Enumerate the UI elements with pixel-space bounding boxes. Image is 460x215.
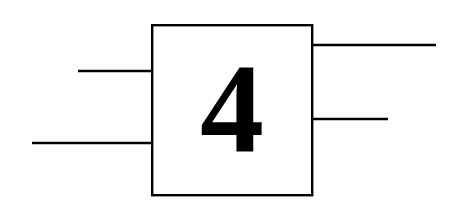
block-label: 4: [151, 24, 313, 196]
diagram-canvas: 4: [0, 0, 460, 215]
